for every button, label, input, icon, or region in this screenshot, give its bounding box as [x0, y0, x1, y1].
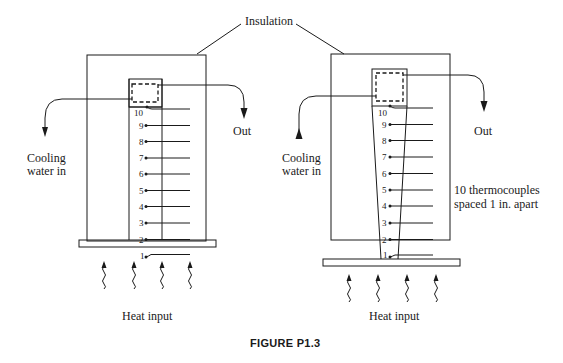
- insulation-leader-right: [296, 24, 344, 54]
- right-rod-left-edge: [372, 106, 381, 259]
- svg-text:10: 10: [134, 108, 144, 118]
- right-outlet-flow: [403, 75, 484, 106]
- left-apparatus: Out Cooling water in 10 9 8 7 6 5 4: [27, 55, 252, 323]
- left-heat-input-label: Heat input: [122, 309, 173, 323]
- right-rod-right-edge: [398, 106, 407, 259]
- svg-text:5: 5: [382, 185, 387, 195]
- svg-text:3: 3: [139, 218, 144, 228]
- right-insulation-box: [331, 54, 450, 240]
- right-cooling-label-2: water in: [282, 164, 321, 178]
- left-outlet-flow: [158, 85, 244, 114]
- right-outlet-arrow-icon: [481, 101, 488, 112]
- svg-text:9: 9: [382, 120, 387, 130]
- right-cooling-label-1: Cooling: [282, 151, 321, 165]
- right-cooling-passage: [376, 73, 403, 101]
- right-note-line-1: 10 thermocouples: [454, 183, 540, 197]
- insulation-leader-left: [197, 24, 241, 54]
- left-inlet-flow: [45, 99, 132, 130]
- right-heat-input-arrows: [347, 274, 439, 302]
- right-note-line-2: spaced 1 in. apart: [454, 197, 539, 211]
- right-inlet-arrow-icon: [296, 128, 303, 139]
- svg-text:4: 4: [139, 202, 144, 212]
- svg-text:7: 7: [382, 152, 387, 162]
- left-outlet-arrow-icon: [241, 108, 248, 119]
- left-cooling-label-2: water in: [27, 164, 66, 178]
- right-heat-input-label: Heat input: [369, 309, 420, 323]
- left-insulation-box: [87, 55, 206, 241]
- figure-p1-3-diagram: Insulation Out Cooling water in 10: [0, 0, 563, 363]
- right-base-plate-rect: [323, 259, 460, 266]
- right-out-label: Out: [474, 124, 493, 138]
- svg-text:8: 8: [139, 137, 144, 147]
- figure-caption: FIGURE P1.3: [250, 337, 321, 349]
- svg-text:6: 6: [382, 169, 387, 179]
- svg-text:8: 8: [382, 136, 387, 146]
- svg-text:4: 4: [382, 201, 387, 211]
- svg-text:2: 2: [139, 235, 144, 245]
- insulation-label: Insulation: [245, 14, 293, 28]
- svg-text:3: 3: [382, 218, 387, 228]
- left-cooling-block: [129, 79, 162, 107]
- svg-text:5: 5: [139, 186, 144, 196]
- right-apparatus: Out Cooling water in 10 thermocouples sp…: [282, 54, 540, 323]
- svg-text:6: 6: [139, 169, 144, 179]
- left-out-label: Out: [233, 124, 252, 138]
- left-cooling-label-1: Cooling: [27, 151, 66, 165]
- svg-text:9: 9: [139, 121, 144, 131]
- right-inlet-flow: [299, 96, 376, 136]
- svg-text:7: 7: [139, 153, 144, 163]
- left-cooling-passage: [132, 84, 158, 102]
- left-inlet-arrow-icon: [42, 127, 48, 137]
- svg-text:1: 1: [383, 250, 388, 260]
- svg-text:10: 10: [378, 108, 388, 118]
- svg-text:2: 2: [382, 235, 387, 245]
- left-heat-input-arrows: [102, 261, 193, 289]
- left-tc-1-label: 1: [140, 251, 145, 261]
